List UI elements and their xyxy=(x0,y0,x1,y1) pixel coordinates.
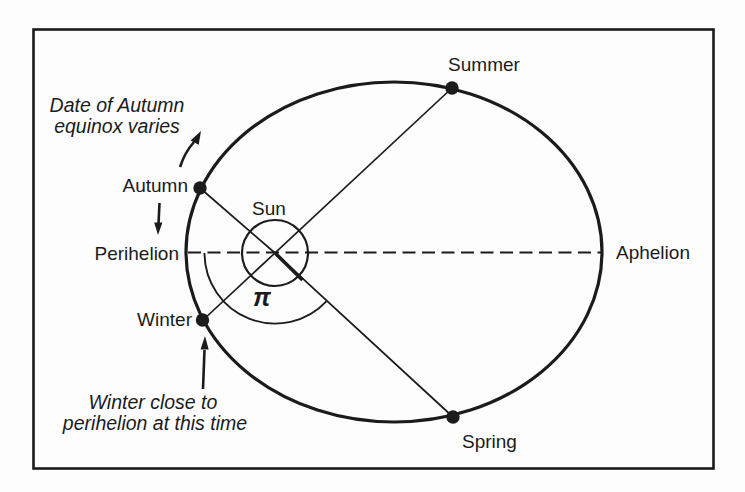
aphelion-label: Aphelion xyxy=(616,242,690,263)
arrow-shaft xyxy=(180,142,194,167)
autumn-point xyxy=(193,181,206,194)
orbit-diagram-figure: Summer Autumn Winter Spring Sun Periheli… xyxy=(0,0,745,492)
arrow-head xyxy=(201,336,209,350)
autumn-equinox-note-line1: Date of Autumn xyxy=(50,94,185,116)
autumn-label: Autumn xyxy=(123,175,188,196)
arrow-shaft xyxy=(203,350,205,389)
arrow-head xyxy=(154,223,162,236)
arrow-shaft xyxy=(159,203,160,224)
orbit-diagram-canvas: Summer Autumn Winter Spring Sun Periheli… xyxy=(0,0,745,492)
winter-perihelion-note-line1: Winter close to xyxy=(89,391,218,413)
autumn-equinox-note-line2: equinox varies xyxy=(54,115,180,137)
summer-winter-line xyxy=(203,88,453,321)
autumn-drift-arrow xyxy=(180,131,201,167)
winter-perihelion-note: Winter close to perihelion at this time xyxy=(62,391,247,434)
perihelion-label: Perihelion xyxy=(95,243,180,264)
spring-point xyxy=(446,410,459,423)
summer-point xyxy=(445,81,458,94)
autumn-to-perihelion-arrow xyxy=(154,203,162,235)
winter-note-arrow xyxy=(201,336,209,389)
summer-label: Summer xyxy=(448,54,520,75)
winter-label: Winter xyxy=(137,309,193,330)
winter-perihelion-note-line2: perihelion at this time xyxy=(62,412,247,434)
pi-label: π xyxy=(253,283,272,311)
autumn-equinox-note: Date of Autumn equinox varies xyxy=(50,94,185,137)
sun-label: Sun xyxy=(252,198,286,219)
spring-label: Spring xyxy=(462,431,517,452)
winter-point xyxy=(196,313,209,326)
